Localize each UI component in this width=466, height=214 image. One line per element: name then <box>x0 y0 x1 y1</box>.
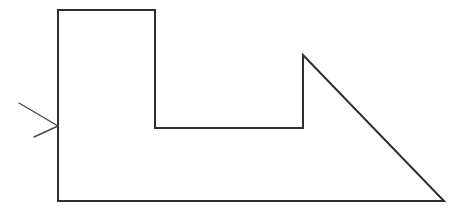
leader-arrow-barb <box>34 126 58 137</box>
notched-polygon-outline <box>58 10 444 201</box>
leader-arrow-shaft <box>19 103 58 126</box>
geometry-drawing-svg <box>0 0 466 214</box>
figure-canvas <box>0 0 466 214</box>
